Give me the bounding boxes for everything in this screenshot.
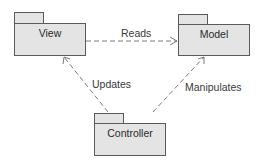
mvc-diagram: View Model Controller Reads Updates Mani… [0, 0, 263, 165]
package-body: Controller [94, 123, 166, 156]
edge-label-manipulates: Manipulates [185, 81, 242, 93]
package-name: View [15, 27, 85, 39]
edge-label-reads: Reads [121, 27, 151, 39]
package-body: Model [178, 24, 250, 56]
edge-label-updates: Updates [92, 78, 131, 90]
package-name: Model [179, 28, 249, 40]
package-name: Controller [95, 127, 165, 139]
package-body: View [14, 23, 86, 56]
